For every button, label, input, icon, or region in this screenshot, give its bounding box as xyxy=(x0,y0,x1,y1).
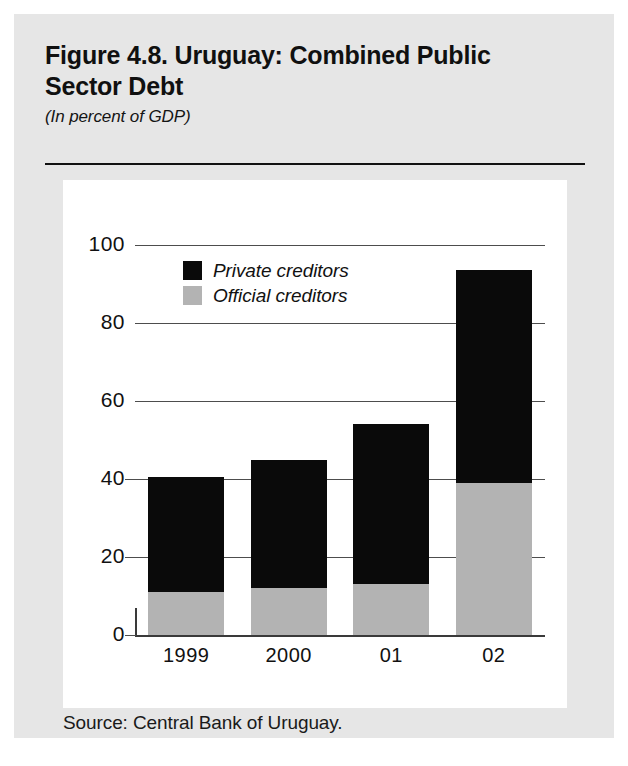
bar-segment-official-01[interactable] xyxy=(353,584,429,635)
x-axis-label-02: 02 xyxy=(439,644,549,667)
x-axis-label-1999: 1999 xyxy=(131,644,241,667)
figure-page: Figure 4.8. Uruguay: Combined Public Sec… xyxy=(0,0,628,766)
bar-segment-private-1999[interactable] xyxy=(148,477,224,592)
bar-segment-private-02[interactable] xyxy=(456,270,532,483)
bar-group-02[interactable] xyxy=(456,270,532,635)
bar-segment-official-1999[interactable] xyxy=(148,592,224,635)
y-axis-label-60: 60 xyxy=(65,388,125,412)
figure-title: Figure 4.8. Uruguay: Combined Public Sec… xyxy=(45,40,550,101)
source-note: Source: Central Bank of Uruguay. xyxy=(63,712,342,734)
bar-segment-official-2000[interactable] xyxy=(251,588,327,635)
bar-segment-private-01[interactable] xyxy=(353,424,429,584)
figure-block: Figure 4.8. Uruguay: Combined Public Sec… xyxy=(45,40,585,712)
chart-panel: Private creditors Official creditors 020… xyxy=(63,180,567,708)
x-axis-label-01: 01 xyxy=(336,644,446,667)
bar-segment-official-02[interactable] xyxy=(456,483,532,635)
bar-group-01[interactable] xyxy=(353,424,429,635)
y-axis-label-20: 20 xyxy=(65,544,125,568)
bar-group-1999[interactable] xyxy=(148,477,224,635)
bar-group-2000[interactable] xyxy=(251,460,327,635)
figure-subtitle: (In percent of GDP) xyxy=(45,107,585,127)
y-axis-label-100: 100 xyxy=(65,232,125,256)
y-axis-label-40: 40 xyxy=(65,466,125,490)
y-axis-label-0: 0 xyxy=(65,622,125,646)
bar-series-container xyxy=(135,180,545,637)
x-axis-label-2000: 2000 xyxy=(234,644,344,667)
plot-area: Private creditors Official creditors 020… xyxy=(63,180,567,708)
title-divider xyxy=(45,163,585,165)
y-axis-label-80: 80 xyxy=(65,310,125,334)
bar-segment-private-2000[interactable] xyxy=(251,460,327,589)
